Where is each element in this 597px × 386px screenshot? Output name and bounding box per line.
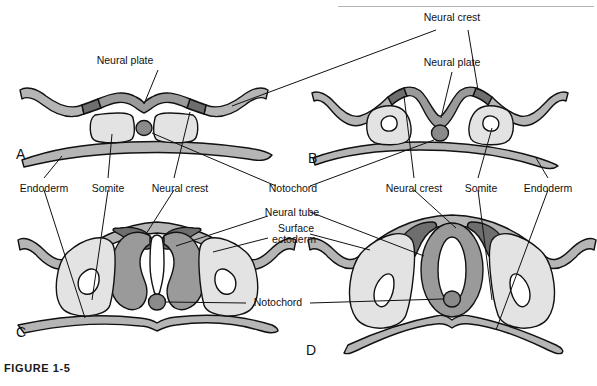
panel-d: D — [306, 215, 596, 358]
label-somite-left: Somite — [92, 182, 125, 194]
label-notochord-cd: Notochord — [254, 296, 303, 308]
figure-caption: FIGURE 1-5 — [4, 362, 71, 374]
panel-a-ectoderm-left — [20, 88, 84, 117]
label-neural-tube: Neural tube — [265, 206, 319, 218]
label-neural-crest-left: Neural crest — [152, 182, 209, 194]
panel-d-letter: D — [306, 342, 316, 358]
panel-a-letter: A — [16, 146, 26, 162]
panel-b-somite-right-cavity — [483, 116, 499, 131]
label-notochord-center: Notochord — [269, 182, 318, 194]
label-b-neural-plate: Neural plate — [424, 56, 481, 68]
label-b-neural-crest: Neural crest — [424, 11, 481, 23]
panel-b-letter: B — [308, 150, 317, 166]
panel-a-endoderm — [22, 141, 272, 167]
panel-a-ectoderm-right — [204, 88, 268, 117]
panel-a-somite-left — [90, 113, 134, 143]
label-somite-right: Somite — [465, 182, 498, 194]
panel-c: C — [16, 222, 296, 340]
label-surface-ectoderm-line2: ectoderm — [272, 233, 316, 245]
panel-b-somite-left-cavity — [381, 116, 397, 131]
panel-c-neural-groove-lumen — [150, 235, 164, 295]
panel-a-somite-right — [154, 113, 198, 143]
panel-a-notochord — [136, 121, 152, 136]
panel-b-neural-plate — [404, 87, 476, 128]
label-endoderm-left: Endoderm — [20, 182, 69, 194]
panel-c-endoderm — [18, 315, 278, 333]
panel-a: A — [16, 88, 272, 167]
label-neural-crest-right: Neural crest — [386, 182, 443, 194]
panel-b-neural-crest-right — [473, 88, 492, 105]
panel-c-letter: C — [16, 324, 26, 340]
panel-c-notochord — [149, 294, 166, 310]
label-a-neural-plate: Neural plate — [97, 54, 154, 66]
figure-1-5: A B — [0, 0, 597, 386]
label-endoderm-right: Endoderm — [524, 182, 573, 194]
panel-b-notochord — [432, 125, 449, 141]
panel-d-notochord — [444, 291, 461, 307]
panel-b-endoderm — [313, 142, 558, 169]
embryo-neurulation-diagram: A B — [0, 0, 597, 386]
panel-b: B — [308, 87, 568, 169]
